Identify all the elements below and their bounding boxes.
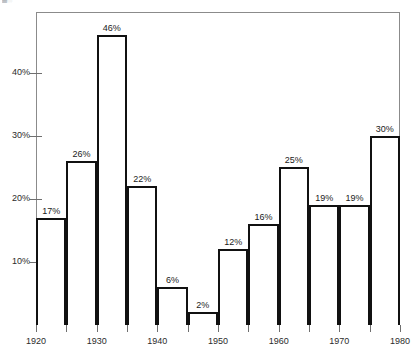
- bar[interactable]: [279, 167, 309, 325]
- x-axis-tick: [339, 325, 340, 332]
- bar[interactable]: [188, 312, 218, 325]
- y-axis: 10%20%30%40%: [0, 0, 30, 361]
- x-axis-tick: [188, 325, 189, 332]
- bar[interactable]: [66, 161, 96, 325]
- y-axis-tick-label: 10%: [2, 257, 30, 266]
- x-axis-tick: [97, 325, 98, 332]
- bar-value-label: 25%: [274, 155, 314, 165]
- x-axis-tick-label: 1980: [380, 336, 418, 346]
- bar-value-label: 16%: [244, 212, 284, 222]
- bar[interactable]: [370, 136, 400, 325]
- x-axis-tick-label: 1940: [137, 336, 177, 346]
- bar-value-label: 22%: [122, 174, 162, 184]
- bar[interactable]: [127, 186, 157, 325]
- bar-value-label: 26%: [62, 149, 102, 159]
- bar-value-label: 46%: [92, 23, 132, 33]
- x-axis-tick: [36, 325, 37, 332]
- bar-value-label: 12%: [213, 237, 253, 247]
- x-axis-tick: [66, 325, 67, 332]
- x-axis-tick-label: 1950: [198, 336, 238, 346]
- bar-value-label: 6%: [153, 275, 193, 285]
- y-axis-tick-label: 20%: [2, 194, 30, 203]
- x-axis-tick-label: 1970: [319, 336, 359, 346]
- y-axis-tick: [29, 199, 42, 200]
- y-axis-tick-label: 30%: [2, 131, 30, 140]
- bar[interactable]: [36, 218, 66, 325]
- x-axis-tick: [157, 325, 158, 332]
- x-axis-tick-label: 1920: [16, 336, 56, 346]
- bar-value-label: 17%: [31, 206, 71, 216]
- x-axis-tick-label: 1960: [259, 336, 299, 346]
- x-axis-tick: [127, 325, 128, 332]
- y-axis-tick: [29, 136, 42, 137]
- x-axis-tick: [218, 325, 219, 332]
- x-axis-tick: [309, 325, 310, 332]
- bar[interactable]: [218, 249, 248, 325]
- x-axis-tick-label: 1930: [77, 336, 117, 346]
- x-axis-tick: [279, 325, 280, 332]
- x-axis-tick: [370, 325, 371, 332]
- bar-value-label: 2%: [183, 300, 223, 310]
- bar[interactable]: [309, 205, 339, 325]
- bar[interactable]: [248, 224, 278, 325]
- bar-value-label: 19%: [335, 193, 375, 203]
- bar-value-label: 30%: [365, 124, 405, 134]
- x-axis-tick: [248, 325, 249, 332]
- y-axis-tick-label: 40%: [2, 68, 30, 77]
- y-axis-tick: [29, 73, 42, 74]
- bar[interactable]: [339, 205, 369, 325]
- x-axis-tick: [400, 325, 401, 332]
- bar-chart: 10%20%30%40% 192019301940195019601970198…: [0, 0, 418, 361]
